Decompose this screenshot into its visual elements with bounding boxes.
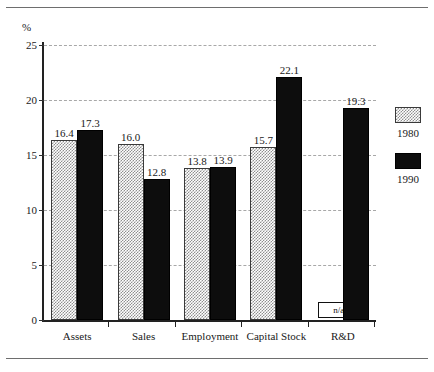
x-tick-mark [175,320,176,327]
gray-checkered-swatch [395,107,421,123]
y-axis-unit-label: % [22,22,31,33]
figure-container: % 0510152025 16.417.316.012.813.813.915.… [0,0,434,372]
y-tick-mark [39,100,44,101]
bar-value-label: 17.3 [81,118,100,129]
y-tick-mark [39,210,44,211]
bar-value-label: 13.8 [187,156,206,167]
legend-entry-1980: 1980 [385,107,431,139]
bar-sales-1990: 12.8 [144,179,170,320]
black-solid-swatch [395,153,421,169]
legend-entry-1990: 1990 [385,153,431,185]
x-category-label: R&D [331,331,355,342]
bar-employment-1980: 13.8 [184,168,210,320]
x-category-label: Assets [63,331,92,342]
x-tick-mark [108,320,109,327]
bar-sales-1980: 16.0 [118,144,144,320]
chart-legend: 19801990 [385,107,431,199]
y-tick-mark [39,45,44,46]
bar-value-label: 13.9 [213,155,232,166]
bar-capital-stock-1980: 15.7 [250,147,276,320]
x-category-label: Capital Stock [247,331,307,342]
y-tick-label: 15 [26,150,37,161]
y-tick-label: 0 [32,315,38,326]
bar-assets-1990: 17.3 [77,130,103,320]
legend-label: 1980 [385,128,431,139]
x-axis-line [42,320,376,322]
y-axis-line [42,42,44,320]
bar-assets-1980: 16.4 [51,140,77,320]
bar-value-label: 16.0 [121,132,140,143]
bar-value-label: 22.1 [280,65,299,76]
y-tick-label: 10 [26,205,37,216]
y-tick-mark [39,265,44,266]
x-category-label: Employment [182,331,239,342]
bar-value-label: 16.4 [55,128,74,139]
bar-value-label: 19.3 [346,96,365,107]
plot-area: 0510152025 16.417.316.012.813.813.915.72… [44,45,376,320]
bar-r-d-1990: 19.3 [343,108,369,320]
gridline [44,100,376,101]
y-tick-label: 5 [32,260,38,271]
y-tick-label: 25 [26,40,37,51]
y-tick-label: 20 [26,95,37,106]
bottom-rule [6,358,428,359]
bar-capital-stock-1990: 22.1 [276,77,302,320]
bar-value-label: 12.8 [147,167,166,178]
legend-label: 1990 [385,174,431,185]
bar-employment-1990: 13.9 [210,167,236,320]
gridline [44,45,376,46]
top-rule [6,7,428,8]
bar-value-label: 15.7 [254,135,273,146]
y-tick-mark [39,155,44,156]
x-tick-mark [374,320,375,327]
y-tick-mark [39,320,44,321]
x-tick-mark [308,320,309,327]
x-category-label: Sales [132,331,155,342]
x-tick-mark [241,320,242,327]
